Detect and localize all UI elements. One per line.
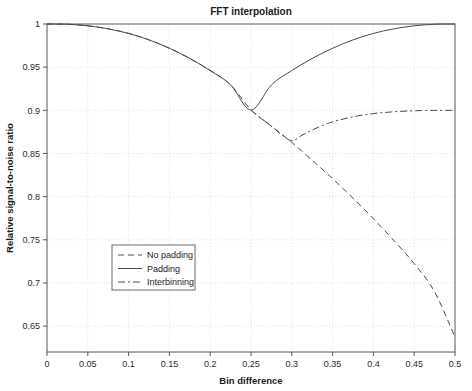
x-axis-title: Bin difference xyxy=(219,375,282,386)
figure-background xyxy=(0,0,472,391)
legend-label-padding: Padding xyxy=(147,264,180,274)
x-tick-label: 0.2 xyxy=(204,359,217,369)
chart-figure: FFT interpolation 00.050.10.150.20.250.3… xyxy=(0,0,472,391)
y-tick-label: 0.85 xyxy=(22,149,40,159)
chart-title: FFT interpolation xyxy=(210,6,292,17)
x-tick-label: 0.15 xyxy=(161,359,179,369)
x-tick-label: 0.35 xyxy=(324,359,342,369)
y-tick-label: 0.75 xyxy=(22,235,40,245)
fft-interpolation-chart: FFT interpolation 00.050.10.150.20.250.3… xyxy=(0,0,472,391)
x-tick-label: 0.45 xyxy=(405,359,423,369)
y-tick-label: 0.9 xyxy=(27,106,40,116)
chart-legend: No paddingPaddingInterbinning xyxy=(112,245,195,290)
x-tick-label: 0.4 xyxy=(367,359,380,369)
x-tick-label: 0.1 xyxy=(122,359,135,369)
x-tick-label: 0.05 xyxy=(79,359,97,369)
legend-label-interbinning: Interbinning xyxy=(147,277,194,287)
y-tick-label: 0.7 xyxy=(27,278,40,288)
x-tick-label: 0.25 xyxy=(242,359,260,369)
y-tick-label: 0.95 xyxy=(22,62,40,72)
x-tick-label: 0 xyxy=(44,359,49,369)
y-tick-label: 0.8 xyxy=(27,192,40,202)
x-tick-label: 0.5 xyxy=(449,359,462,369)
y-tick-label: 0.65 xyxy=(22,321,40,331)
x-tick-label: 0.3 xyxy=(286,359,299,369)
y-tick-label: 1 xyxy=(35,19,40,29)
legend-label-no-padding: No padding xyxy=(147,250,193,260)
y-axis-title: Relative signal-to-noise ratio xyxy=(4,123,15,253)
